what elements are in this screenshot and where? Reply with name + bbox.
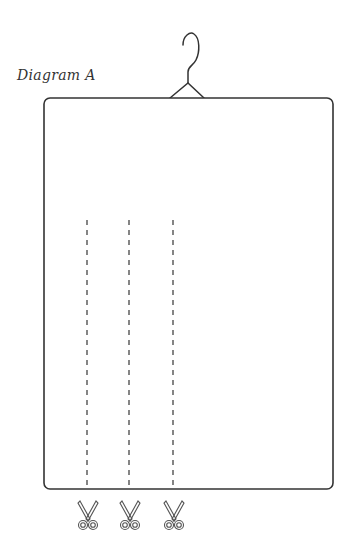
hanger-icon (170, 33, 204, 98)
scissors-icon[interactable] (120, 501, 140, 530)
scissors-icon[interactable] (78, 501, 98, 530)
scissors-icon[interactable] (164, 501, 184, 530)
diagram-canvas (0, 0, 356, 553)
